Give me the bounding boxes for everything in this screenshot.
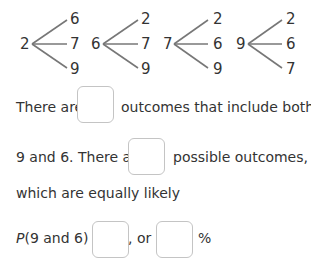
tree-branch: 2	[286, 10, 296, 28]
tree-branch: 2	[141, 10, 151, 28]
sentence-text: 9 and 6. There are	[16, 149, 145, 165]
sentence-text: outcomes that include both	[121, 99, 311, 115]
answer-box-probability-percent[interactable]	[156, 221, 193, 258]
answer-box-outcomes-with-9-and-6[interactable]	[77, 86, 114, 123]
tree-diagram-4: 9 2 6 7	[236, 10, 296, 78]
tree-root: 9	[236, 35, 246, 53]
tree-diagrams: 2 6 7 9 6 2 7 9 7 2 6 9	[0, 0, 311, 80]
tree-branch: 6	[70, 10, 80, 28]
sentence-text: possible outcomes,	[173, 149, 308, 165]
or-text: , or	[128, 230, 151, 246]
sentence-text: which are equally likely	[16, 185, 180, 201]
tree-root: 2	[20, 35, 30, 53]
answer-box-total-outcomes[interactable]	[128, 138, 165, 175]
tree-branch: 9	[213, 60, 223, 78]
tree-branch: 7	[141, 35, 151, 53]
tree-diagram-1: 2 6 7 9	[20, 10, 80, 78]
sentence-text: There are	[16, 99, 83, 115]
tree-branch: 9	[70, 60, 80, 78]
tree-diagram-2: 6 2 7 9	[91, 10, 151, 78]
tree-branch: 6	[286, 35, 296, 53]
answer-box-probability-fraction[interactable]	[92, 221, 129, 258]
tree-diagram-3: 7 2 6 9	[163, 10, 223, 78]
percent-sign: %	[198, 230, 211, 246]
tree-branch: 7	[286, 60, 296, 78]
tree-branch: 2	[213, 10, 223, 28]
tree-branch: 7	[70, 35, 80, 53]
tree-root: 7	[163, 35, 173, 53]
tree-branch: 6	[213, 35, 223, 53]
tree-branch: 9	[141, 60, 151, 78]
tree-root: 6	[91, 35, 101, 53]
